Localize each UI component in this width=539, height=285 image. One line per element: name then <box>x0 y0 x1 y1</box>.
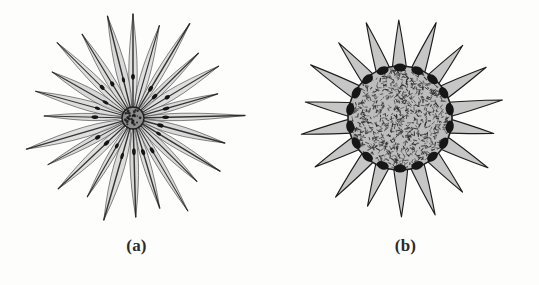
texture-mark <box>408 138 410 139</box>
texture-mark <box>382 134 383 136</box>
texture-mark <box>419 90 420 91</box>
texture-mark <box>391 130 392 132</box>
texture-mark <box>385 124 386 125</box>
spine-base-nodule <box>394 64 406 72</box>
texture-mark <box>386 143 387 144</box>
texture-mark <box>365 100 366 101</box>
capsule-granule <box>128 115 131 118</box>
texture-mark <box>435 133 437 134</box>
texture-mark <box>429 126 430 127</box>
texture-mark <box>441 108 442 109</box>
texture-mark <box>430 130 431 132</box>
texture-mark <box>423 81 424 82</box>
capsule-granule <box>125 112 127 114</box>
texture-mark <box>362 110 363 112</box>
figure-panel-a: (a) <box>0 0 269 285</box>
texture-mark <box>376 89 379 90</box>
texture-mark <box>412 129 413 130</box>
capsule-granule <box>124 119 127 122</box>
texture-mark <box>432 92 433 93</box>
texture-mark <box>410 78 413 79</box>
texture-mark <box>361 113 362 115</box>
texture-mark <box>406 115 407 118</box>
central-capsule <box>122 107 144 129</box>
texture-mark <box>397 147 398 150</box>
capsule-granule <box>135 109 137 111</box>
texture-mark <box>402 97 403 99</box>
texture-mark <box>360 118 361 119</box>
texture-mark <box>413 140 416 141</box>
panel-b-illustration <box>269 0 538 240</box>
panel-a-caption: (a) <box>0 236 271 256</box>
texture-mark <box>426 118 427 119</box>
texture-mark <box>376 110 377 111</box>
texture-mark <box>394 140 395 142</box>
texture-mark <box>393 85 395 86</box>
texture-mark <box>393 146 394 149</box>
texture-mark <box>395 143 396 145</box>
texture-mark <box>407 113 408 114</box>
texture-mark <box>442 117 443 118</box>
texture-mark <box>389 88 391 89</box>
capsule-granule <box>131 120 134 123</box>
texture-mark <box>407 166 408 167</box>
texture-mark <box>369 137 370 139</box>
texture-mark <box>401 82 402 84</box>
texture-mark <box>381 83 382 84</box>
texture-mark <box>399 155 400 156</box>
texture-mark <box>374 95 375 96</box>
texture-mark <box>437 148 439 149</box>
texture-mark <box>380 156 381 157</box>
capsule-granule <box>126 123 128 125</box>
capsule-granule <box>136 110 138 112</box>
texture-mark <box>363 96 366 97</box>
texture-mark <box>426 101 428 102</box>
texture-mark <box>382 78 385 79</box>
texture-mark <box>435 142 436 145</box>
figure-panel-b: (b) <box>269 0 538 285</box>
texture-mark <box>400 115 401 116</box>
texture-mark <box>394 163 395 165</box>
texture-mark <box>405 129 408 130</box>
spine-base-nodule <box>394 165 406 173</box>
texture-mark <box>380 118 381 121</box>
texture-mark <box>392 71 393 72</box>
figure-root: (a) (b) <box>0 0 539 285</box>
texture-mark <box>425 127 427 128</box>
texture-mark <box>411 104 412 105</box>
texture-mark <box>418 143 419 144</box>
texture-mark <box>385 118 387 119</box>
texture-mark <box>369 108 370 112</box>
texture-mark <box>415 159 416 161</box>
capsule-granule <box>139 116 142 119</box>
texture-mark <box>384 85 387 86</box>
texture-mark <box>401 80 403 81</box>
texture-mark <box>376 101 377 103</box>
texture-mark <box>396 134 398 135</box>
capsule-granule <box>127 110 130 113</box>
texture-mark <box>410 98 411 99</box>
texture-mark <box>366 86 369 87</box>
ray-granule <box>131 74 135 80</box>
texture-mark <box>394 82 395 83</box>
texture-mark <box>395 159 397 160</box>
texture-mark <box>380 78 381 81</box>
texture-mark <box>377 132 378 133</box>
texture-mark <box>376 158 377 159</box>
texture-mark <box>406 84 408 85</box>
texture-mark <box>430 105 431 106</box>
texture-mark <box>420 101 421 103</box>
texture-mark <box>408 96 409 97</box>
panel-b-caption: (b) <box>269 236 539 256</box>
texture-mark <box>370 117 371 118</box>
texture-mark <box>421 120 422 121</box>
texture-mark <box>399 100 400 103</box>
texture-mark <box>414 105 415 106</box>
texture-mark <box>374 145 375 147</box>
texture-mark <box>375 146 376 147</box>
texture-mark <box>418 86 420 87</box>
capsule-granule <box>132 113 135 116</box>
texture-mark <box>421 93 422 94</box>
capsule-granule <box>137 115 139 117</box>
capsule-granule <box>136 122 138 124</box>
